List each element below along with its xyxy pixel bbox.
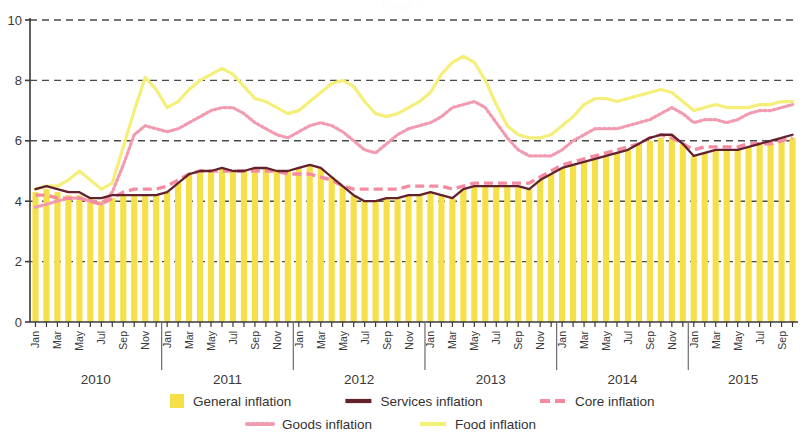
- year-label: 2010: [81, 372, 111, 387]
- x-tick-label: Jan: [556, 331, 568, 348]
- bar: [438, 195, 444, 322]
- y-tick-label: 6: [15, 133, 22, 148]
- x-tick-label: Jul: [754, 331, 766, 344]
- bar: [142, 195, 148, 322]
- x-tick-label: Mar: [446, 331, 458, 350]
- bar: [318, 168, 324, 322]
- bar: [789, 138, 795, 322]
- y-tick-label: 8: [15, 73, 22, 88]
- bar: [405, 195, 411, 322]
- x-tick-label: Mar: [183, 331, 195, 350]
- bar: [186, 174, 192, 322]
- x-tick-label: Jul: [490, 331, 502, 344]
- chart-canvas: Graph 10246810JanMarMayJulSepNovJanMarMa…: [0, 0, 804, 438]
- x-tick-label: Sep: [776, 331, 788, 350]
- legend-label: General inflation: [193, 394, 291, 409]
- x-tick-label: May: [600, 330, 612, 351]
- bars-group: [32, 135, 795, 322]
- year-label: 2012: [344, 372, 374, 387]
- x-tick-label: May: [205, 330, 217, 351]
- bar: [778, 141, 784, 322]
- bar: [362, 201, 368, 322]
- bar: [526, 189, 532, 322]
- bar: [263, 168, 269, 322]
- bar: [32, 192, 38, 322]
- legend-item-core-inflation[interactable]: Core inflation: [540, 394, 655, 409]
- legend-group: General inflationServices inflationCore …: [170, 394, 655, 432]
- bar: [680, 144, 686, 322]
- legend-item-goods-inflation[interactable]: Goods inflation: [247, 417, 372, 432]
- bar: [493, 186, 499, 322]
- x-tick-label: Sep: [644, 331, 656, 350]
- x-tick-label: Sep: [249, 331, 261, 350]
- bar: [109, 198, 115, 322]
- bar: [702, 153, 708, 322]
- bar: [340, 186, 346, 322]
- bar: [285, 171, 291, 322]
- x-tick-label: Jan: [293, 331, 305, 348]
- bar: [471, 186, 477, 322]
- x-tick-label: Nov: [666, 330, 678, 349]
- bar: [603, 156, 609, 322]
- x-tick-label: May: [732, 330, 744, 351]
- bar: [197, 171, 203, 322]
- bar: [164, 192, 170, 322]
- bar: [329, 177, 335, 322]
- x-tick-label: Jul: [95, 331, 107, 344]
- x-tick-label: Mar: [578, 331, 590, 350]
- x-tick-label: Nov: [403, 330, 415, 349]
- bar: [636, 144, 642, 322]
- x-tick-label: Jan: [688, 331, 700, 348]
- bar: [87, 198, 93, 322]
- bar: [131, 195, 137, 322]
- bar: [373, 201, 379, 322]
- bar: [625, 150, 631, 322]
- bar: [570, 165, 576, 322]
- bar: [746, 147, 752, 322]
- y-tick-label: 0: [15, 315, 22, 330]
- x-tick-label: Sep: [117, 331, 129, 350]
- bar: [175, 183, 181, 322]
- series-line-core-inflation: [35, 135, 792, 204]
- bar: [394, 198, 400, 322]
- bar: [548, 174, 554, 322]
- bar: [43, 189, 49, 322]
- bar: [54, 192, 60, 322]
- bar: [241, 171, 247, 322]
- legend-label: Core inflation: [575, 394, 655, 409]
- bar: [592, 159, 598, 322]
- x-tick-label: Mar: [315, 331, 327, 350]
- bar: [307, 165, 313, 322]
- x-tick-label: Mar: [710, 331, 722, 350]
- y-tick-label: 10: [8, 13, 22, 28]
- x-tick-label: Jan: [161, 331, 173, 348]
- bar: [460, 189, 466, 322]
- bar: [76, 195, 82, 322]
- bar: [98, 201, 104, 322]
- ghost-title: Graph 1: [382, 0, 422, 11]
- bar: [296, 168, 302, 322]
- bar: [724, 150, 730, 322]
- bar: [482, 186, 488, 322]
- x-tick-label: Nov: [534, 330, 546, 349]
- year-label: 2011: [213, 372, 242, 387]
- bar: [537, 180, 543, 322]
- legend-swatch-bar: [170, 394, 184, 408]
- x-tick-label: Jul: [359, 331, 371, 344]
- inflation-chart: Graph 10246810JanMarMayJulSepNovJanMarMa…: [0, 0, 804, 438]
- legend-item-general-inflation[interactable]: General inflation: [170, 394, 291, 409]
- x-tick-label: Jan: [29, 331, 41, 348]
- legend-item-services-inflation[interactable]: Services inflation: [345, 394, 482, 409]
- x-tick-label: Jul: [622, 331, 634, 344]
- bar: [416, 195, 422, 322]
- x-tick-label: Jul: [227, 331, 239, 344]
- legend-label: Goods inflation: [282, 417, 372, 432]
- year-label: 2013: [476, 372, 506, 387]
- bar: [351, 195, 357, 322]
- bar: [559, 168, 565, 322]
- bar: [713, 150, 719, 322]
- bar: [735, 150, 741, 322]
- legend-item-food-inflation[interactable]: Food inflation: [420, 417, 536, 432]
- x-tick-label: Sep: [512, 331, 524, 350]
- bar: [208, 171, 214, 322]
